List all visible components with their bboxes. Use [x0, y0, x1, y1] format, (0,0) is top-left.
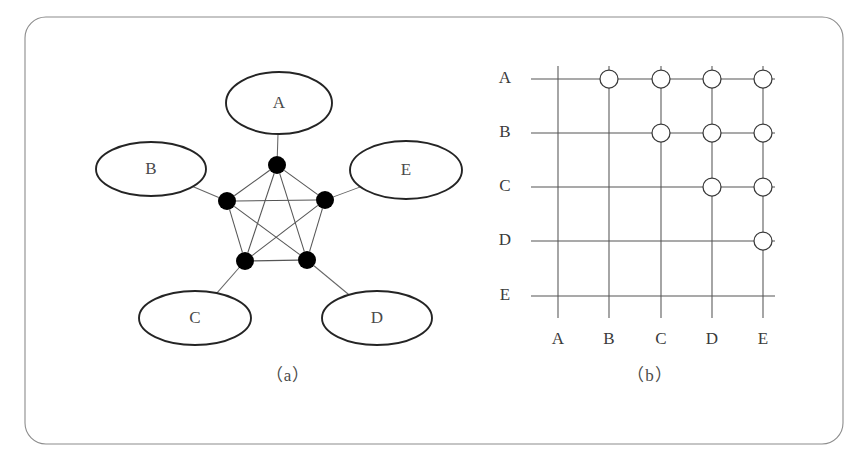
grid-cell-AD: [703, 70, 721, 88]
grid-cell-AB: [600, 70, 618, 88]
graph-edge-BE: [236, 200, 316, 201]
figure-canvas: ABECD ABCDEABCDE （a） （b）: [0, 0, 867, 465]
entity-label-A: A: [273, 93, 286, 112]
grid-row-label-B: B: [499, 122, 510, 141]
panel-a-entity-ellipses: ABECD: [96, 72, 462, 345]
panel-b-grid-lines: [531, 66, 775, 318]
grid-column-label-B: B: [603, 329, 614, 348]
grid-cell-AC: [652, 70, 670, 88]
graph-edge-AE: [284, 170, 317, 194]
graph-edge-BC: [230, 210, 243, 253]
grid-column-label-A: A: [552, 329, 565, 348]
caption-panel-a: （a）: [266, 366, 311, 385]
caption-panel-b: （b）: [627, 366, 673, 385]
grid-cell-AE: [754, 70, 772, 88]
leader-line-E: [333, 187, 360, 197]
graph-edge-BD: [234, 206, 300, 254]
grid-cell-DE: [754, 232, 772, 250]
graph-edge-CD: [254, 260, 298, 261]
grid-column-label-C: C: [655, 329, 666, 348]
leader-line-A: [277, 134, 278, 156]
leader-line-D: [314, 266, 349, 295]
graph-edge-AB: [234, 170, 269, 195]
grid-column-label-E: E: [758, 329, 768, 348]
grid-row-label-D: D: [499, 230, 511, 249]
leader-line-B: [193, 187, 219, 198]
entity-label-B: B: [145, 159, 156, 178]
panel-b-axis-labels: ABCDEABCDE: [499, 68, 768, 348]
entity-label-E: E: [401, 160, 411, 179]
grid-column-label-D: D: [706, 329, 718, 348]
graph-edge-DE: [310, 209, 323, 252]
entity-label-D: D: [371, 308, 383, 327]
grid-cell-BC: [652, 124, 670, 142]
leader-line-C: [217, 268, 239, 293]
grid-row-label-E: E: [500, 285, 510, 304]
grid-cell-BD: [703, 124, 721, 142]
entity-label-C: C: [189, 308, 200, 327]
grid-row-label-A: A: [499, 68, 512, 87]
grid-cell-BE: [754, 124, 772, 142]
graph-edge-CE: [252, 205, 318, 255]
grid-cell-CD: [703, 178, 721, 196]
figure-root: ABECD ABCDEABCDE （a） （b）: [0, 0, 867, 465]
panel-b-grid-cells: [600, 70, 772, 250]
graph-edge-AC: [248, 174, 274, 253]
panel-a-graph-edges: [230, 170, 323, 261]
panel-a-graph-vertices: [218, 156, 334, 270]
grid-cell-CE: [754, 178, 772, 196]
grid-row-label-C: C: [499, 176, 510, 195]
graph-edge-AD: [280, 174, 305, 252]
